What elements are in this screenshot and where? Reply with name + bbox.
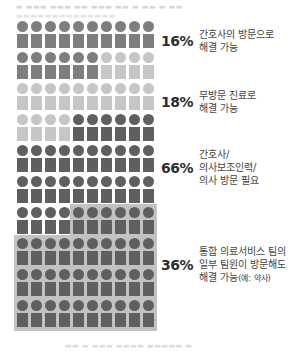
person-body-icon (115, 96, 126, 110)
person-head-icon (17, 114, 28, 125)
person-head-icon (59, 207, 70, 218)
person-icon (129, 269, 140, 295)
person-head-icon (87, 83, 98, 94)
percent-label: 18% (161, 94, 199, 110)
person-icon (59, 145, 70, 171)
person-body-icon (101, 34, 112, 48)
person-head-icon (87, 176, 98, 187)
person-body-icon (87, 189, 98, 203)
person-icon (129, 145, 140, 171)
person-head-icon (17, 83, 28, 94)
person-body-icon (129, 220, 140, 234)
person-icon (59, 269, 70, 295)
person-icon (87, 83, 98, 109)
person-icon (73, 300, 84, 326)
person-body-icon (45, 127, 56, 141)
person-head-icon (73, 207, 84, 218)
person-head-icon (101, 52, 112, 63)
person-icon (73, 269, 84, 295)
person-icon (59, 83, 70, 109)
person-body-icon (17, 189, 28, 203)
person-icon (87, 52, 98, 78)
person-head-icon (17, 176, 28, 187)
person-head-icon (73, 83, 84, 94)
person-head-icon (59, 238, 70, 249)
person-body-icon (143, 220, 154, 234)
person-body-icon (129, 127, 140, 141)
person-icon (129, 238, 140, 264)
legend-description: 통합 의료서비스 팀의 일부 팀원이 방문해도 해결 가능(예: 약사) (199, 245, 286, 285)
person-head-icon (129, 207, 140, 218)
person-body-icon (17, 34, 28, 48)
person-body-icon (143, 313, 154, 327)
person-icon (87, 269, 98, 295)
person-icon (73, 238, 84, 264)
person-icon (17, 114, 28, 140)
person-head-icon (143, 21, 154, 32)
person-icon (45, 21, 56, 47)
person-head-icon (45, 300, 56, 311)
person-head-icon (115, 52, 126, 63)
person-icon (45, 145, 56, 171)
person-body-icon (31, 34, 42, 48)
person-icon (115, 145, 126, 171)
person-head-icon (17, 207, 28, 218)
person-body-icon (143, 65, 154, 79)
person-body-icon (17, 158, 28, 172)
percent-label: 66% (161, 160, 199, 176)
person-icon (115, 176, 126, 202)
person-body-icon (129, 65, 140, 79)
person-icon (17, 269, 28, 295)
person-head-icon (17, 21, 28, 32)
person-body-icon (45, 189, 56, 203)
person-head-icon (101, 176, 112, 187)
person-icon (87, 238, 98, 264)
person-head-icon (73, 21, 84, 32)
person-icon (87, 114, 98, 140)
person-body-icon (17, 282, 28, 296)
person-body-icon (73, 96, 84, 110)
person-head-icon (87, 300, 98, 311)
person-icon (101, 269, 112, 295)
person-body-icon (59, 189, 70, 203)
legend-description: 무방문 진료로 해결 가능 (199, 89, 256, 115)
person-head-icon (129, 52, 140, 63)
person-head-icon (31, 21, 42, 32)
desc-line: 해결 가능 (199, 272, 238, 283)
person-icon (17, 238, 28, 264)
person-head-icon (129, 21, 140, 32)
person-body-icon (115, 251, 126, 265)
person-body-icon (59, 282, 70, 296)
person-body-icon (17, 65, 28, 79)
person-body-icon (87, 282, 98, 296)
person-icon (129, 52, 140, 78)
person-icon (115, 114, 126, 140)
person-icon (73, 21, 84, 47)
person-head-icon (143, 176, 154, 187)
person-body-icon (59, 313, 70, 327)
person-icon (17, 52, 28, 78)
person-icon (101, 52, 112, 78)
person-head-icon (115, 21, 126, 32)
person-head-icon (143, 114, 154, 125)
person-head-icon (87, 145, 98, 156)
person-head-icon (31, 207, 42, 218)
person-body-icon (17, 127, 28, 141)
desc-line: 간호사의 방문으로 (199, 28, 274, 41)
person-icon (129, 176, 140, 202)
person-body-icon (143, 127, 154, 141)
person-head-icon (143, 145, 154, 156)
person-body-icon (31, 65, 42, 79)
person-head-icon (59, 52, 70, 63)
person-head-icon (129, 176, 140, 187)
person-body-icon (101, 96, 112, 110)
person-icon (31, 269, 42, 295)
person-head-icon (59, 176, 70, 187)
person-body-icon (129, 313, 140, 327)
legend-description: 간호사의 방문으로 해결 가능 (199, 28, 274, 54)
person-icon (59, 238, 70, 264)
person-body-icon (45, 251, 56, 265)
person-icon (87, 176, 98, 202)
person-body-icon (45, 282, 56, 296)
person-body-icon (143, 189, 154, 203)
